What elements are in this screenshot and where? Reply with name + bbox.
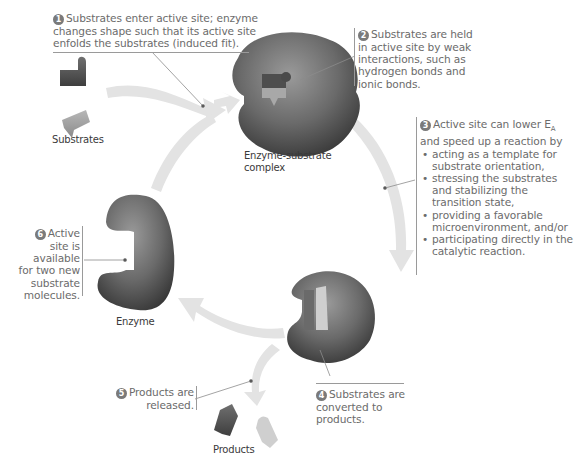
step-4-line: Substrates are [329,388,405,400]
step-5-line: Products are [129,386,194,398]
bullet-item: acting as a template forsubstrate orient… [432,148,573,172]
products [214,404,278,448]
step-2-line: ionic bonds. [358,78,473,90]
product-light [256,416,278,448]
step-4-line: products. [316,413,405,425]
step-6-bar [82,226,83,296]
step-2-line: interactions, such as [358,53,473,65]
step-6-caption: 6Active site is available for two new su… [10,227,80,301]
step-1-underline [53,52,249,53]
bullet-item: providing a favorablemicroenvironment, a… [432,209,573,233]
arrow-enzyme-to-complex [151,114,216,192]
step-number-badge: 1 [53,14,64,25]
step-5-caption: 5Products are released. [108,386,194,411]
arrow-products-released [244,344,280,406]
step-5-bar [196,386,197,410]
step-5-line: released. [108,399,194,411]
step-number-badge: 5 [116,388,127,399]
step-6-line: available [10,252,80,264]
step-4-overline [316,383,404,384]
step-4-line: converted to [316,401,405,413]
step-number-badge: 2 [358,30,369,41]
step-2-line: Substrates are held [371,28,473,40]
step-number-badge: 4 [316,390,327,401]
ea-subscript: A [551,125,556,133]
step-1-caption: 1Substrates enter active site; enzyme ch… [53,12,258,49]
step-1-line: enfolds the substrates (induced fit). [53,37,258,49]
substrate-dark [60,57,86,86]
step-6-line: for two new [10,264,80,276]
step-6-line: molecules. [10,289,80,301]
step-2-line: hydrogen bonds and [358,65,473,77]
step-3-bar [416,117,417,275]
step-6-line: substrate [10,277,80,289]
arrow-complex-to-products [350,118,414,272]
step-3-bullet-list: acting as a template forsubstrate orient… [420,148,573,258]
substrates-label: Substrates [52,134,104,145]
step-4-caption: 4Substrates are converted to products. [316,388,405,425]
enzyme-substrate-complex [232,32,360,156]
step-2-line: in active site by weak [358,41,473,53]
step-3-line: Active site can lower E [433,118,551,130]
enzyme-label: Enzyme [116,316,155,327]
product-dark [214,404,238,436]
step-2-caption: 2Substrates are held in active site by w… [358,28,473,90]
bullet-item: participating directly in thecatalytic r… [432,233,573,257]
step-1-line: Substrates enter active site; enzyme [66,12,258,24]
step-6-line: site is [10,240,80,252]
bullet-item: stressing the substratesand stabilizing … [432,172,573,209]
substrates-free [60,57,90,138]
step-6-line: Active [48,227,80,239]
step-3-line: and speed up a reaction by [420,135,573,147]
step-number-badge: 3 [420,120,431,131]
enzyme-free [98,195,175,311]
step-3-caption: 3Active site can lower EA and speed up a… [420,118,573,257]
products-label: Products [213,444,255,455]
arrow-products-to-enzyme [178,298,285,339]
enzyme-products-complex [287,271,375,363]
complex-label: Enzyme-substrate complex [244,150,331,174]
step-1-line: changes shape such that its active site [53,25,258,37]
step-number-badge: 6 [35,229,46,240]
step-2-bar [354,28,355,86]
